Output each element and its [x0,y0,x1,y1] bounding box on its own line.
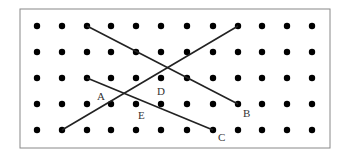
grid-dot [284,49,290,55]
grid-dot [259,75,265,81]
grid-dot [284,101,290,107]
grid-dot [158,101,164,107]
grid-dot [259,127,265,133]
grid-dot [84,127,90,133]
grid-dot [34,23,40,29]
grid-dot [108,75,114,81]
grid-dot [158,75,164,81]
grid-dot [133,75,139,81]
grid-dot [34,127,40,133]
point-label-a: A [97,90,105,102]
grid-dot [284,23,290,29]
grid-dot [34,49,40,55]
grid-dot [84,49,90,55]
grid-dot [210,23,216,29]
grid-dot [235,75,241,81]
grid-dots [34,23,315,133]
grid-dot [158,127,164,133]
grid-dot [59,75,65,81]
grid-dot [108,23,114,29]
grid-dot [259,49,265,55]
point-label-e: E [138,109,145,121]
grid-dot [210,101,216,107]
grid-dot [34,75,40,81]
grid-dot [309,127,315,133]
grid-dot [259,101,265,107]
grid-dot [34,101,40,107]
grid-dot [59,101,65,107]
grid-dot [84,101,90,107]
grid-dot [235,49,241,55]
grid-dot [210,49,216,55]
grid-dot [108,127,114,133]
grid-dot [184,127,190,133]
grid-dot [210,75,216,81]
grid-dot [59,49,65,55]
grid-dot [309,49,315,55]
point-label-c: C [218,131,225,143]
grid-dot [108,49,114,55]
grid-dot [259,23,265,29]
grid-dot [184,101,190,107]
point-label-b: B [243,107,250,119]
grid-dot [309,101,315,107]
grid-dot [133,127,139,133]
grid-dot [133,101,139,107]
grid-dot [59,23,65,29]
grid-dot [309,75,315,81]
grid-dot [133,23,139,29]
dot-grid-diagram: ADEBC [0,0,344,157]
grid-dot [158,49,164,55]
point-label-d: D [157,85,165,97]
grid-dot [184,23,190,29]
grid-dot [284,75,290,81]
grid-dot [284,127,290,133]
grid-dot [309,23,315,29]
grid-dot [158,23,164,29]
grid-dot [235,127,241,133]
